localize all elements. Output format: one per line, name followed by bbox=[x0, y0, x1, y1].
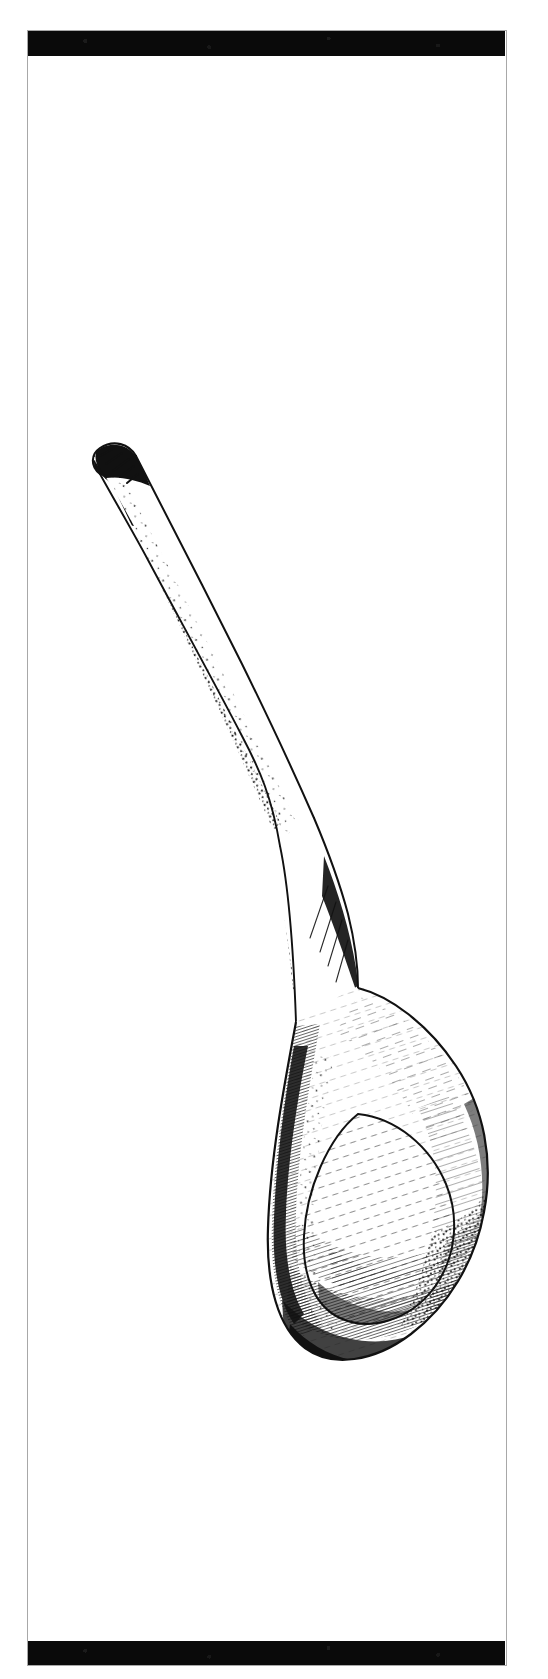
spoon-handle bbox=[82, 443, 314, 846]
spoon-bowl bbox=[258, 976, 505, 1386]
plate-page: wooden spoon bbox=[0, 0, 548, 1679]
spoon-drawing bbox=[82, 443, 505, 1386]
spoon-illustration bbox=[28, 56, 505, 1641]
spoon-neck bbox=[256, 818, 358, 1022]
top-black-bar bbox=[28, 31, 505, 56]
bottom-black-bar bbox=[28, 1641, 505, 1665]
